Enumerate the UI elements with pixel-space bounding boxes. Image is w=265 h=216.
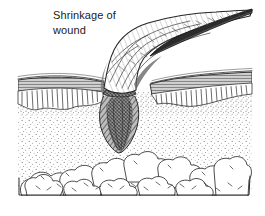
skin-cross-section-illustration: Shrinkage of wound bbox=[0, 0, 265, 216]
caption-shrinkage-of-wound: Shrinkage of wound bbox=[53, 8, 173, 38]
